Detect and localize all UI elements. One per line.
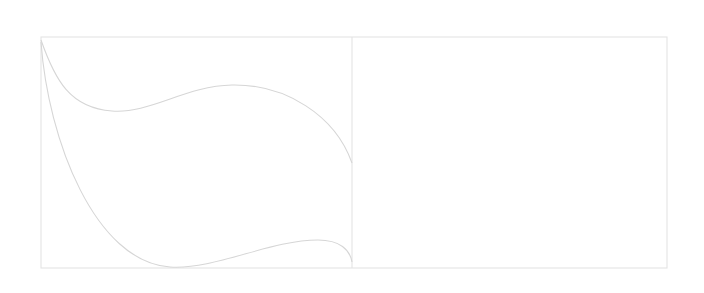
outer-frame — [41, 37, 667, 268]
sketch-canvas — [0, 0, 704, 293]
sketch-drawing — [0, 0, 704, 293]
upper-wave-curve — [41, 40, 352, 163]
lower-wave-curve — [41, 42, 352, 267]
